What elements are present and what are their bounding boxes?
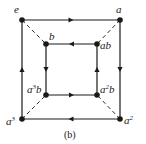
node-dot-a3 — [19, 116, 25, 122]
figure-caption: (b) — [64, 129, 76, 141]
arrowhead-icon — [69, 17, 74, 22]
node-dot-ab — [94, 41, 100, 47]
node-dot-b — [43, 41, 49, 47]
node-label-e: e — [14, 3, 19, 15]
node-label-a: a — [116, 3, 122, 15]
node-label-a2b: a2b — [100, 83, 115, 95]
arrowhead-icon — [19, 67, 24, 72]
arrowhead-icon — [43, 67, 48, 72]
node-label-b: b — [49, 30, 55, 42]
arrowhead-icon — [69, 116, 74, 121]
arrowhead-icon — [69, 41, 74, 46]
dashed-edge-a3-a3b — [22, 95, 46, 119]
arrowhead-icon — [69, 92, 74, 97]
node-label-a3b: a3b — [27, 83, 42, 95]
arrowhead-icon — [117, 67, 122, 72]
arrowhead-icon — [94, 67, 99, 72]
cayley-graph-diagram: e a b ab a3b a2b a3 a2 (b) — [0, 0, 146, 144]
dashed-edge-e-b — [22, 20, 46, 44]
edges-layer — [22, 20, 120, 119]
node-label-a2: a2 — [124, 114, 134, 126]
node-dot-a — [117, 17, 123, 23]
nodes-layer — [19, 17, 123, 122]
node-dot-a3b — [43, 92, 49, 98]
node-dot-e — [19, 17, 25, 23]
dashed-edge-a2-a2b — [97, 95, 120, 119]
node-label-a3: a3 — [6, 115, 16, 127]
node-dot-a2b — [94, 92, 100, 98]
arrowheads-layer — [19, 17, 122, 121]
node-dot-a2 — [117, 116, 123, 122]
node-label-ab: ab — [100, 39, 112, 51]
